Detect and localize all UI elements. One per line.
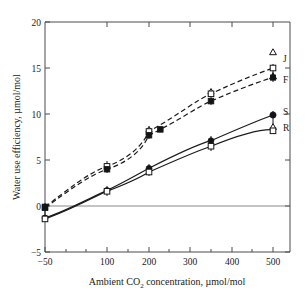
marker-F-x-350 [208,98,214,104]
x-tick-marks [45,22,273,252]
curve-series-F [45,77,273,208]
marker-J-x-500 [270,65,276,71]
marker-outlier-open-triangle-x-500 [270,49,277,55]
y-ticklabel-5: 5 [36,156,41,166]
x-ticklabel-200: 200 [142,257,157,267]
y-ticklabel--5: −5 [31,248,41,258]
series-label-F: F [283,75,288,85]
y-tick-labels: −5 0 5 10 15 20 [31,18,41,258]
markers-x-215 [158,127,164,133]
marker-R-x-350 [208,143,214,149]
markers-x-195 [146,126,152,175]
x-ticklabel--50: −50 [38,257,53,267]
y-ticklabel-10: 10 [32,110,42,120]
y-ticklabel-20: 20 [32,18,42,28]
marker-S-x-350 [208,138,214,144]
x-ticklabel-100: 100 [100,257,115,267]
x-tick-labels: −50 100 200 300 400 500 [38,257,281,267]
curve-series-R [45,130,273,219]
marker-R-x-100 [104,189,110,195]
marker-J-x-350 [208,91,214,97]
x-ticklabel-500: 500 [266,257,281,267]
curve-series-J [45,68,273,207]
marker-extra-x-215 [158,127,164,133]
series-label-J: J [283,54,287,64]
marker-F-x-100 [104,166,110,172]
x-axis-title: Ambient CO2 concentration, µmol/mol [89,276,246,290]
y-tick-marks [45,22,290,252]
y-ticklabel-0: 0 [36,202,41,212]
x-axis-title-before: Ambient CO [89,276,140,287]
series-label-S: S [283,107,288,117]
marker-F-x-500 [270,75,275,80]
marker-F-x--50 [42,205,48,211]
markers-x-100 [104,164,110,195]
error-bars [45,64,273,222]
series-label-R: R [283,123,290,133]
marker-R-x-195 [146,169,152,175]
series-labels: J F S R [283,54,290,133]
figure-container: −5 0 5 10 15 20 − [0,0,307,297]
marker-R-x--50 [42,216,48,222]
y-ticklabel-15: 15 [32,64,42,74]
marker-S-x-500 [270,112,276,118]
x-ticklabel-400: 400 [225,257,240,267]
axes-frame [45,22,290,252]
y-axis-title: Water use efficiency, µmol/mol [11,74,22,200]
marker-R-x-500 [270,128,276,134]
marker-F-x-195 [146,132,152,138]
water-use-efficiency-chart: −5 0 5 10 15 20 − [0,0,307,297]
x-axis-title-after: concentration, µmol/mol [144,276,246,287]
x-ticklabel-300: 300 [183,257,198,267]
